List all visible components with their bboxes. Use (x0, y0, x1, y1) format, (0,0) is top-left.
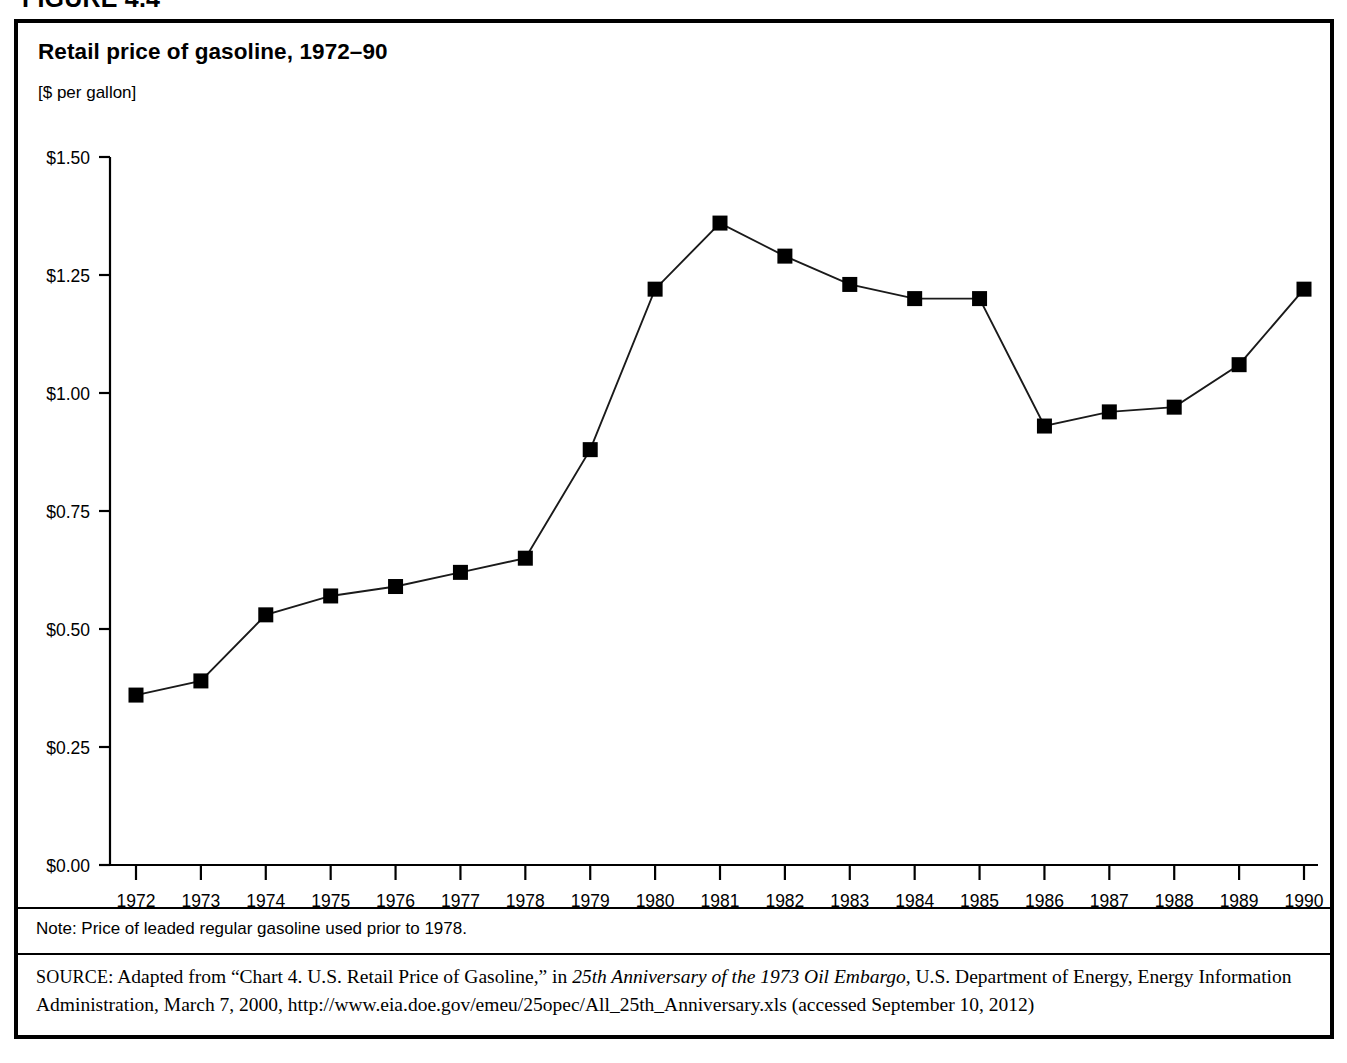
y-axis-tick-label: $1.00 (46, 384, 90, 404)
y-axis-tick-label: $0.25 (46, 738, 90, 758)
data-point-marker (388, 579, 403, 594)
data-point-marker (648, 282, 663, 297)
y-axis-tick-label: $0.75 (46, 502, 90, 522)
data-point-marker (1297, 282, 1312, 297)
chart-plot-area: $0.00$0.25$0.50$0.75$1.00$1.25$1.5019721… (18, 23, 1330, 1035)
data-point-marker (583, 442, 598, 457)
data-point-marker (258, 607, 273, 622)
figure-frame: Retail price of gasoline, 1972–90 [$ per… (14, 19, 1334, 1039)
figure-page: FIGURE 4.4 Retail price of gasoline, 197… (0, 0, 1347, 1063)
footer-divider-top (18, 907, 1330, 909)
data-point-marker (129, 688, 144, 703)
source-title-italic: 25th Anniversary of the 1973 Oil Embargo (572, 966, 906, 987)
line-chart: $0.00$0.25$0.50$0.75$1.00$1.25$1.5019721… (18, 23, 1330, 913)
data-point-marker (518, 551, 533, 566)
chart-note: Note: Price of leaded regular gasoline u… (36, 919, 467, 939)
data-point-marker (1232, 357, 1247, 372)
data-point-marker (777, 249, 792, 264)
data-point-marker (323, 588, 338, 603)
footer-divider-bottom (18, 953, 1330, 955)
y-axis-tick-label: $1.25 (46, 266, 90, 286)
series-line-gasoline-price (136, 223, 1304, 695)
data-point-marker (713, 216, 728, 231)
y-axis-tick-label: $0.50 (46, 620, 90, 640)
source-text-part1: Adapted from “Chart 4. U.S. Retail Price… (113, 966, 572, 987)
data-point-marker (907, 291, 922, 306)
data-point-marker (193, 673, 208, 688)
figure-label: FIGURE 4.4 (22, 0, 160, 13)
y-axis-tick-label: $0.00 (46, 856, 90, 876)
data-point-marker (972, 291, 987, 306)
source-prefix: SOURCE: (36, 967, 113, 987)
data-point-marker (1037, 419, 1052, 434)
data-point-marker (453, 565, 468, 580)
data-point-marker (1102, 404, 1117, 419)
data-point-marker (1167, 400, 1182, 415)
data-point-marker (842, 277, 857, 292)
y-axis-tick-label: $1.50 (46, 148, 90, 168)
chart-source: SOURCE: Adapted from “Chart 4. U.S. Reta… (36, 963, 1308, 1018)
